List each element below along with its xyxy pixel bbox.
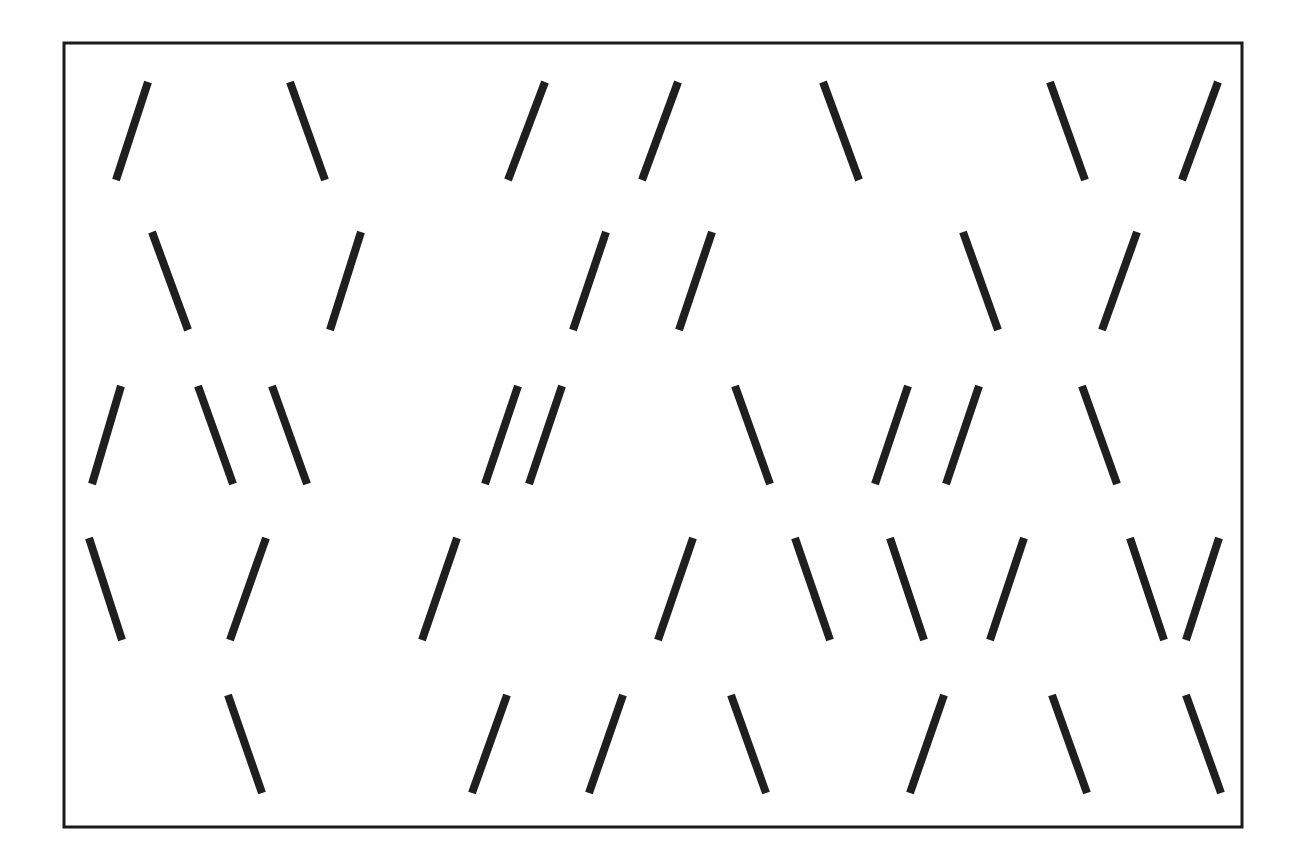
tilted-line-r3-c7-left <box>875 386 908 484</box>
tilted-line-r5-c2-left <box>472 695 507 793</box>
line-array-figure <box>0 0 1298 862</box>
tilted-line-r4-c6-right <box>890 538 924 640</box>
tilted-line-r3-c6-right <box>735 386 770 484</box>
tilted-line-r1-c5-right <box>823 82 859 180</box>
tilted-lines-group <box>89 82 1221 793</box>
tilted-line-r5-c7-right <box>1186 695 1221 793</box>
tilted-line-r4-c7-left <box>990 538 1024 640</box>
stimulus-canvas <box>0 0 1298 862</box>
tilted-line-r2-c5-right <box>963 232 998 330</box>
tilted-line-r3-c2-right <box>198 386 233 484</box>
tilted-line-r3-c1-left <box>92 386 121 484</box>
tilted-line-r3-c3-right <box>272 386 307 484</box>
tilted-line-r4-c5-right <box>795 538 830 640</box>
tilted-line-r3-c4-left <box>485 386 518 484</box>
tilted-line-r4-c2-left <box>230 538 266 640</box>
tilted-line-r3-c5-left <box>529 386 562 484</box>
tilted-line-r5-c1-right <box>228 695 262 793</box>
tilted-line-r2-c4-left <box>679 232 712 330</box>
tilted-line-r5-c5-left <box>910 695 944 793</box>
tilted-line-r1-c3-left <box>508 82 545 180</box>
tilted-line-r4-c1-right <box>89 538 122 640</box>
tilted-line-r1-c1-left <box>116 82 148 180</box>
tilted-line-r4-c9-left <box>1186 538 1219 640</box>
tilted-line-r5-c6-right <box>1052 695 1087 793</box>
tilted-line-r2-c2-left <box>330 232 361 330</box>
tilted-line-r2-c3-left <box>573 232 606 330</box>
tilted-line-r3-c8-left <box>946 386 979 484</box>
tilted-line-r4-c3-left <box>422 538 457 640</box>
tilted-line-r2-c6-left <box>1102 232 1137 330</box>
tilted-line-r2-c1-right <box>152 232 188 330</box>
tilted-line-r3-c9-right <box>1082 386 1117 484</box>
tilted-line-r5-c3-left <box>589 695 623 793</box>
tilted-line-r5-c4-right <box>731 695 766 793</box>
tilted-line-r1-c6-right <box>1050 82 1085 180</box>
tilted-line-r1-c2-right <box>290 82 325 180</box>
tilted-line-r1-c7-left <box>1182 82 1218 180</box>
tilted-line-r1-c4-left <box>642 82 678 180</box>
tilted-line-r4-c4-left <box>658 538 693 640</box>
tilted-line-r4-c8-right <box>1130 538 1164 640</box>
